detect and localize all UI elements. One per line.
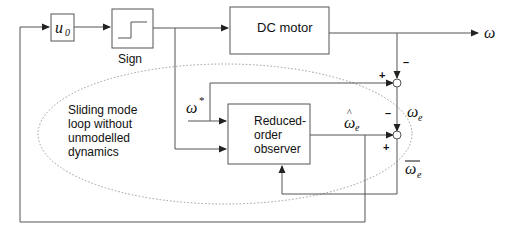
gain-symbol: u (55, 19, 63, 36)
gain-subscript: 0 (65, 27, 70, 38)
error-subscript: e (418, 112, 423, 123)
annotation-line-2: loop without (68, 117, 133, 131)
dc-motor-block: DC motor (230, 7, 329, 54)
motor-label: DC motor (257, 20, 313, 35)
block-diagram: u 0 Sign DC motor Reduced- order observe… (0, 0, 514, 232)
reference-omega-label: ω (186, 99, 197, 116)
reference-star: * (199, 94, 205, 106)
estimate-hat: ^ (347, 107, 352, 118)
annotation-line-1: Sliding mode (68, 103, 138, 117)
bottom-minus-sign: – (385, 107, 391, 119)
annotation-line-4: dynamics (68, 145, 119, 159)
observer-label-1: Reduced- (254, 114, 306, 128)
sign-block: Sign (112, 9, 153, 66)
estimate-subscript: e (355, 122, 360, 133)
bottom-plus-sign: + (383, 141, 389, 153)
sign-label: Sign (118, 52, 142, 66)
observer-label-3: observer (254, 142, 301, 156)
estimate-error-omega-label: ω (405, 160, 416, 177)
annotation-line-3: unmodelled (68, 131, 130, 145)
summing-junction-top (393, 79, 401, 87)
error-omega-label: ω (407, 103, 418, 120)
region-annotation: Sliding mode loop without unmodelled dyn… (68, 103, 138, 159)
observer-block: Reduced- order observer (228, 104, 310, 164)
output-omega-label: ω (484, 24, 495, 41)
summing-junction-bottom (393, 131, 401, 139)
top-plus-sign: + (379, 69, 385, 81)
top-minus-sign: – (403, 56, 409, 68)
estimate-error-subscript: e (417, 169, 422, 180)
observer-label-2: order (254, 128, 282, 142)
gain-block-u0: u 0 (51, 14, 74, 41)
